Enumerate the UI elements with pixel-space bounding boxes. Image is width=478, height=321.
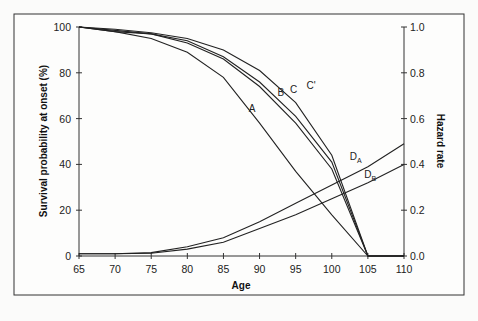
y2-tick-label: 1.0 xyxy=(410,21,425,33)
x-tick-label: 65 xyxy=(73,263,85,275)
y2-tick-label: 0.8 xyxy=(410,67,425,79)
y2-tick-label: 0.2 xyxy=(410,204,425,216)
x-tick-label: 100 xyxy=(323,263,341,275)
x-tick-label: 95 xyxy=(290,263,302,275)
y-tick-label: 40 xyxy=(59,158,71,170)
x-tick-label: 110 xyxy=(396,263,413,275)
curve-label-b: B xyxy=(278,87,285,98)
y-tick-label: 80 xyxy=(59,67,71,79)
chart-frame xyxy=(14,14,464,295)
x-tick-label: 90 xyxy=(254,263,266,275)
curve-label-a: A xyxy=(249,103,256,114)
y-axis-label: Survival probability at onset (%) xyxy=(38,65,49,217)
y-tick-label: 60 xyxy=(59,113,71,125)
curve-label-c-prime: C' xyxy=(307,80,316,91)
x-axis-label: Age xyxy=(232,280,251,291)
y-tick-label: 20 xyxy=(59,204,71,216)
y2-tick-label: 0.6 xyxy=(410,113,425,125)
y2-tick-label: 0.4 xyxy=(410,158,425,170)
x-tick-label: 80 xyxy=(181,263,193,275)
y-tick-label: 0 xyxy=(65,250,71,262)
x-tick-label: 85 xyxy=(218,263,230,275)
y2-axis-label: Hazard rate xyxy=(435,114,446,169)
x-tick-label: 75 xyxy=(145,263,157,275)
curve-label-c: C xyxy=(290,84,297,95)
y-tick-label: 100 xyxy=(53,21,71,33)
x-tick-label: 105 xyxy=(359,263,377,275)
y2-tick-label: 0.0 xyxy=(410,250,425,262)
x-tick-label: 70 xyxy=(109,263,121,275)
chart: 0204060801000.00.20.40.60.81.06570758085… xyxy=(0,0,478,321)
